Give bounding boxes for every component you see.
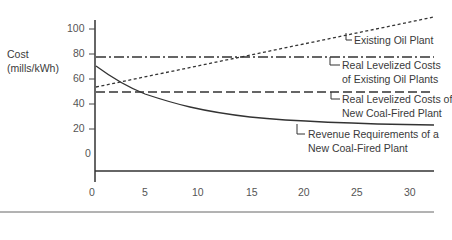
x-tick-5: 5 xyxy=(142,186,148,198)
y-tick-40: 40 xyxy=(73,97,85,109)
x-tick-0: 0 xyxy=(89,186,95,198)
y-tick-60: 60 xyxy=(73,72,85,84)
x-tick-30: 30 xyxy=(404,186,416,198)
y-axis-ticks xyxy=(89,29,95,129)
x-tick-10: 10 xyxy=(192,186,204,198)
x-tick-20: 20 xyxy=(298,186,310,198)
y-tick-100: 100 xyxy=(67,22,85,34)
annotation-levelized-coal-line2: New Coal-Fired Plant xyxy=(342,107,442,120)
annotation-existing-oil: Existing Oil Plant xyxy=(354,34,433,47)
y-axis-label-line1: Cost xyxy=(7,48,29,61)
annotation-levelized-oil-line2: of Existing Oil Plants xyxy=(342,73,438,86)
annotation-levelized-coal-line1: Real Levelized Costs of xyxy=(342,93,452,106)
y-tick-80: 80 xyxy=(73,47,85,59)
annotation-revenue-coal-line2: New Coal-Fired Plant xyxy=(308,142,408,155)
annotation-revenue-coal-line1: Revenue Requirements of a xyxy=(308,128,439,141)
x-tick-15: 15 xyxy=(246,186,258,198)
annotation-levelized-oil-line1: Real Levelized Costs xyxy=(342,59,441,72)
y-axis-label-line2: (mills/kWh) xyxy=(7,62,59,75)
x-tick-25: 25 xyxy=(351,186,363,198)
y-tick-0: 0 xyxy=(85,147,91,159)
y-tick-20: 20 xyxy=(73,122,85,134)
